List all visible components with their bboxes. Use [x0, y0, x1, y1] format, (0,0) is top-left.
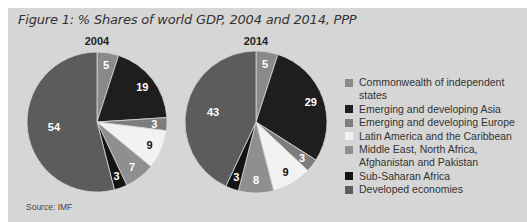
- legend-item-developed: Developed economies: [345, 183, 527, 196]
- pie-slice-label: 9: [283, 166, 289, 178]
- legend-label: Sub-Saharan Africa: [359, 170, 527, 183]
- legend-swatch: [345, 132, 353, 140]
- legend-swatch: [345, 172, 353, 180]
- pie-slice-label: 7: [129, 161, 135, 173]
- pie-slice-label: 3: [233, 171, 239, 183]
- legend-swatch: [345, 119, 353, 127]
- legend-item-cis: Commonwealth of independent states: [345, 76, 527, 102]
- legend-item-asia: Emerging and developing Asia: [345, 103, 527, 116]
- legend-label: Developed economies: [359, 183, 527, 196]
- legend-item-latam: Latin America and the Caribbean: [345, 130, 527, 143]
- source-note: Source: IMF: [26, 202, 72, 212]
- legend-swatch: [345, 146, 353, 154]
- pie-slice-label: 3: [299, 152, 305, 164]
- pie-slice-label: 5: [103, 59, 109, 71]
- pie-slice-label: 19: [136, 81, 148, 93]
- pie-chart-2004: 519397354: [27, 52, 167, 192]
- legend-swatch: [345, 79, 353, 87]
- pie-slice-label: 54: [48, 121, 61, 133]
- legend-label: Emerging and developing Asia: [359, 103, 527, 116]
- legend-swatch: [345, 105, 353, 113]
- pie-slice-label: 8: [253, 174, 259, 186]
- legend-label: Commonwealth of independent states: [359, 76, 527, 102]
- legend-label: Middle East, North Africa, Afghanistan a…: [359, 143, 527, 169]
- legend-swatch: [345, 186, 353, 194]
- pie-slice-label: 43: [207, 106, 219, 118]
- legend-item-europe: Emerging and developing Europe: [345, 116, 527, 129]
- pie-slice-label: 5: [262, 58, 268, 70]
- legend-item-ssa: Sub-Saharan Africa: [345, 170, 527, 183]
- pie-slice-label: 29: [305, 96, 317, 108]
- pie-chart-2014: 529398343: [185, 51, 327, 193]
- legend-label: Emerging and developing Europe: [359, 116, 527, 129]
- pie-slice-label: 3: [151, 118, 157, 130]
- pie-slice-label: 3: [113, 170, 119, 182]
- pie-slice-label: 9: [147, 139, 153, 151]
- legend: Commonwealth of independent states Emerg…: [345, 76, 527, 197]
- legend-label: Latin America and the Caribbean: [359, 130, 527, 143]
- legend-item-mena: Middle East, North Africa, Afghanistan a…: [345, 143, 527, 169]
